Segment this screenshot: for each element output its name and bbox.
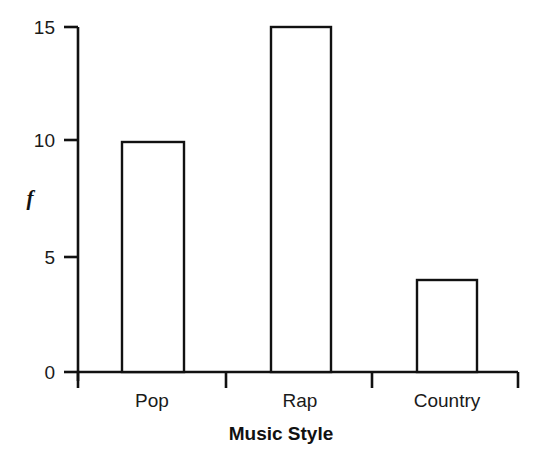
- bar-rap: [271, 27, 331, 372]
- y-tick-label-10: 10: [34, 130, 55, 151]
- x-tick-label-rap: Rap: [283, 390, 318, 411]
- x-tick-label-pop: Pop: [135, 390, 169, 411]
- y-tick-label-5: 5: [44, 247, 55, 268]
- x-tick-label-country: Country: [414, 390, 481, 411]
- bar-pop: [122, 142, 184, 372]
- y-tick-label-0: 0: [44, 362, 55, 383]
- bar-country: [417, 280, 477, 372]
- y-tick-label-15: 15: [34, 17, 55, 38]
- x-axis-title: Music Style: [229, 423, 334, 444]
- bar-chart-figure: 15 10 5 0 f Pop Rap Country Music Style: [0, 0, 547, 459]
- chart-canvas: 15 10 5 0 f Pop Rap Country Music Style: [0, 0, 547, 459]
